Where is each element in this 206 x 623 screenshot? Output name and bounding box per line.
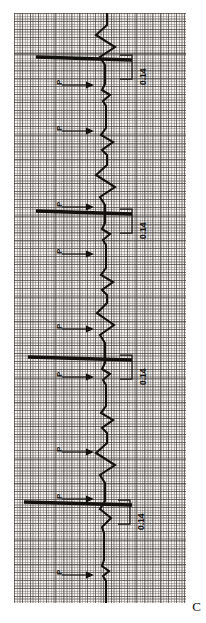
ecg-trace-svg — [14, 13, 186, 603]
p-wave-label: P — [56, 570, 64, 575]
calibration-bar — [24, 502, 132, 505]
p-wave-label: P — [56, 126, 64, 131]
p-wave-label: P — [56, 249, 64, 254]
calibration-bars — [24, 57, 132, 505]
ecg-graph-paper: P P P P P P P P P 0.14 0.14 0.14 0.14 — [14, 13, 186, 603]
p-wave-label: P — [56, 447, 64, 452]
p-wave-label: P — [56, 202, 64, 207]
pr-interval-label: 0.14 — [139, 222, 148, 239]
ecg-figure: P P P P P P P P P 0.14 0.14 0.14 0.14 C — [0, 0, 206, 623]
panel-label: C — [192, 599, 201, 615]
interval-brackets — [118, 55, 132, 524]
ecg-waveform — [96, 13, 115, 603]
calibration-bar — [36, 57, 132, 60]
calibration-bar — [36, 211, 132, 214]
pr-interval-label: 0.14 — [139, 368, 148, 385]
pr-interval-label: 0.14 — [137, 513, 146, 530]
pr-interval-label: 0.14 — [139, 68, 148, 85]
p-wave-label: P — [56, 80, 64, 85]
p-wave-label: P — [56, 324, 64, 329]
p-wave-label: P — [56, 494, 64, 499]
p-wave-label: P — [56, 372, 64, 377]
calibration-bar — [28, 357, 132, 360]
